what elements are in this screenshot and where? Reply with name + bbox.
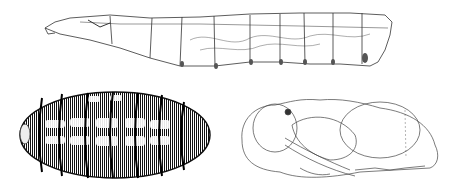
pupa-illustration (230, 90, 459, 189)
larva-illustration (0, 0, 459, 80)
puparium-illustration (0, 90, 230, 189)
